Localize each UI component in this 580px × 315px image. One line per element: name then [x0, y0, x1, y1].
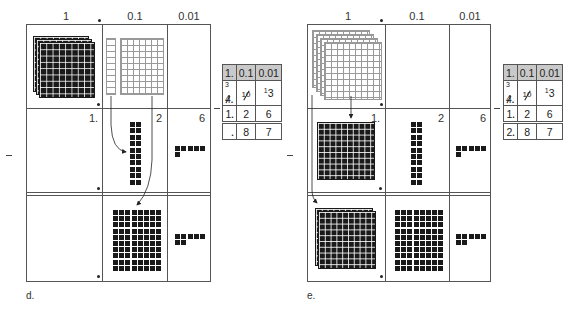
arrow-icon — [111, 96, 126, 152]
movement-arrows — [0, 0, 580, 315]
arrow-icon — [137, 96, 152, 205]
arrow-icon — [312, 95, 317, 203]
